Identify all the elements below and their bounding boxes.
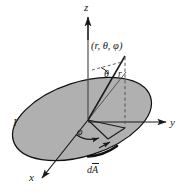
y-axis-label: y	[170, 117, 175, 128]
current-label: I	[13, 117, 17, 128]
spherical-coordinate-figure: z y x (r, θ, φ) θ r φ I dA	[0, 0, 184, 195]
disk-ellipse	[2, 62, 162, 177]
phi-angle-label: φ	[77, 127, 83, 137]
z-axis-label: z	[84, 2, 88, 13]
area-element-label: dA	[87, 165, 98, 175]
radius-label: r	[118, 70, 122, 80]
x-axis-label: x	[29, 172, 34, 183]
current-disk	[2, 62, 162, 177]
point-coordinates-label: (r, θ, φ)	[91, 41, 122, 52]
theta-angle-label: θ	[104, 69, 109, 79]
area-element-vector: A	[92, 165, 98, 175]
